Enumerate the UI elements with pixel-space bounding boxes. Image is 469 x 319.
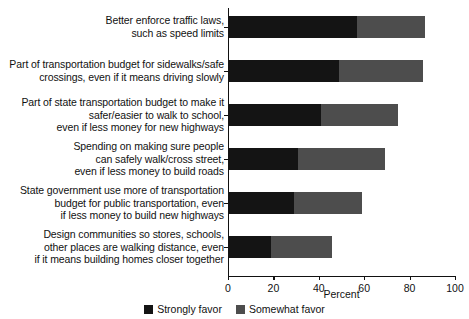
y-tick xyxy=(224,27,228,28)
bar-segment-strongly-favor xyxy=(228,104,321,126)
bar-row xyxy=(228,192,455,214)
bar-row xyxy=(228,104,455,126)
legend-label: Strongly favor xyxy=(157,303,222,315)
bar-segment-somewhat-favor xyxy=(271,236,332,258)
x-axis-title: Percent xyxy=(228,288,455,300)
x-tick xyxy=(319,276,320,280)
y-tick xyxy=(224,247,228,248)
legend-label: Somewhat favor xyxy=(249,303,325,315)
x-axis-line xyxy=(228,276,455,277)
bar-segment-strongly-favor xyxy=(228,16,357,38)
x-tick xyxy=(410,276,411,280)
legend-item: Strongly favor xyxy=(144,303,222,315)
y-tick xyxy=(224,71,228,72)
x-tick xyxy=(455,276,456,280)
category-label: Better enforce traffic laws, such as spe… xyxy=(0,14,224,39)
bar-segment-somewhat-favor xyxy=(294,192,362,214)
category-label: Design communities so stores, schools, o… xyxy=(0,228,224,266)
bar-segment-somewhat-favor xyxy=(339,60,423,82)
bar-segment-somewhat-favor xyxy=(357,16,425,38)
bar-segment-strongly-favor xyxy=(228,192,294,214)
legend-item: Somewhat favor xyxy=(236,303,325,315)
y-tick xyxy=(224,115,228,116)
bar-segment-somewhat-favor xyxy=(321,104,398,126)
y-tick xyxy=(224,203,228,204)
bar-row xyxy=(228,148,455,170)
category-label: State government use more of transportat… xyxy=(0,184,224,222)
stacked-bar-chart: Better enforce traffic laws, such as spe… xyxy=(0,0,469,319)
bar-row xyxy=(228,236,455,258)
bar-row xyxy=(228,16,455,38)
x-tick xyxy=(228,276,229,280)
bar-segment-strongly-favor xyxy=(228,148,298,170)
category-labels: Better enforce traffic laws, such as spe… xyxy=(0,0,224,280)
x-tick xyxy=(273,276,274,280)
bar-segment-somewhat-favor xyxy=(298,148,384,170)
legend-swatch-icon xyxy=(236,305,245,314)
bar-row xyxy=(228,60,455,82)
category-label: Part of transportation budget for sidewa… xyxy=(0,58,224,83)
x-tick xyxy=(364,276,365,280)
category-label: Spending on making sure people can safel… xyxy=(0,140,224,178)
legend-swatch-icon xyxy=(144,305,153,314)
chart-legend: Strongly favorSomewhat favor xyxy=(0,303,469,315)
bar-segment-strongly-favor xyxy=(228,236,271,258)
bar-segment-strongly-favor xyxy=(228,60,339,82)
y-tick xyxy=(224,159,228,160)
plot-area: 020406080100 xyxy=(228,8,455,276)
category-label: Part of state transportation budget to m… xyxy=(0,96,224,134)
